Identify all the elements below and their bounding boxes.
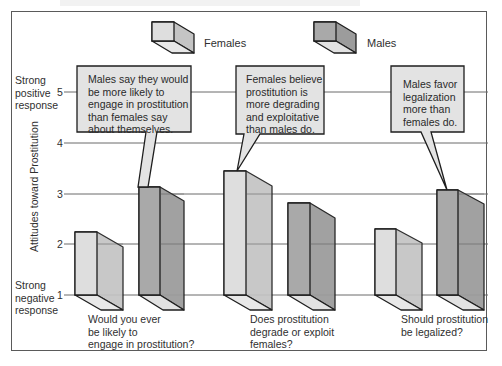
y-tick-1: 1 xyxy=(57,289,63,301)
bar-q3-females xyxy=(375,229,422,310)
y-top-anchor-label: Strong positive response xyxy=(15,74,58,112)
callout-3-text: Males favor legalization more than femal… xyxy=(403,78,457,128)
y-tick-5: 5 xyxy=(57,86,63,98)
legend-females-icon xyxy=(152,22,194,53)
y-tick-3: 3 xyxy=(57,188,63,200)
bar-q2-males xyxy=(288,203,335,310)
question-3-label: Should prostitution be legalized? xyxy=(401,313,488,338)
legend-females-label: Females xyxy=(204,37,246,50)
y-axis-title: Attitudes toward Prostitution xyxy=(28,121,40,252)
bar-q3-males xyxy=(437,190,484,310)
y-bottom-anchor-label: Strong negative response xyxy=(15,279,58,317)
question-2-label: Does prostitution degrade or exploit fem… xyxy=(250,313,334,351)
y-tick-4: 4 xyxy=(57,137,63,149)
callout-1-text: Males say they would be more likely to e… xyxy=(88,73,188,136)
question-1-label: Would you ever be likely to engage in pr… xyxy=(88,313,194,351)
y-tick-2: 2 xyxy=(57,238,63,250)
chart-canvas xyxy=(0,0,502,366)
legend-males-icon xyxy=(314,22,356,53)
bar-q1-males xyxy=(139,187,184,310)
bar-q2-females xyxy=(224,171,272,310)
callout-2-text: Females believe prostitution is more deg… xyxy=(246,73,322,136)
legend-males-label: Males xyxy=(367,37,396,50)
